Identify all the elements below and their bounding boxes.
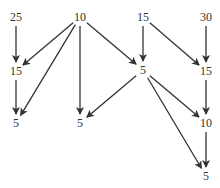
edge-n6-n10 — [150, 76, 199, 117]
node-n5: 15 — [9, 65, 23, 77]
node-n2: 10 — [73, 11, 87, 23]
node-n9: 5 — [76, 117, 84, 129]
edge-n6-n11 — [148, 78, 202, 169]
edge-n2-n8 — [21, 25, 76, 116]
node-n8: 5 — [12, 117, 20, 129]
edges-layer — [0, 0, 220, 188]
edge-n6-n9 — [87, 76, 136, 117]
edge-n2-n6 — [87, 23, 136, 64]
node-n11: 5 — [202, 170, 210, 182]
graph-diagram: 251015301551555105 — [0, 0, 220, 188]
edge-n3-n7 — [150, 23, 199, 65]
edge-n2-n5 — [23, 23, 73, 65]
node-n1: 25 — [9, 11, 23, 23]
node-n3: 15 — [136, 11, 150, 23]
node-n4: 30 — [199, 11, 213, 23]
node-n6: 5 — [139, 64, 147, 76]
node-n7: 15 — [199, 65, 213, 77]
node-n10: 10 — [199, 117, 213, 129]
